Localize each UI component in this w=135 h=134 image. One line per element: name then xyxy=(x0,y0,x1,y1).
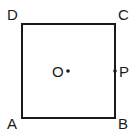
square-diagram: D C A B O P xyxy=(0,0,135,134)
point-label-o: O xyxy=(52,63,64,80)
point-p-dot xyxy=(113,69,117,73)
point-o-dot xyxy=(66,69,70,73)
vertex-label-b: B xyxy=(118,115,128,132)
vertex-label-c: C xyxy=(118,6,129,23)
vertex-label-d: D xyxy=(7,6,18,23)
vertex-label-a: A xyxy=(7,115,17,132)
point-label-p: P xyxy=(119,63,129,80)
